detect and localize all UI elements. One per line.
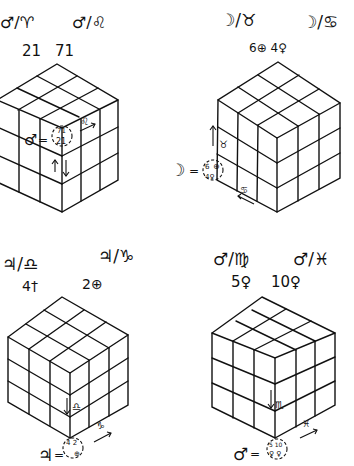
value-71: 71 bbox=[55, 42, 74, 60]
cancer-icon: ♋ bbox=[240, 185, 248, 195]
arrow-right-icon bbox=[94, 433, 111, 442]
svg-text:=: = bbox=[54, 448, 64, 462]
arrow-right-icon bbox=[300, 430, 317, 438]
jupiter-capricorn-label: ♃/♑ bbox=[98, 246, 134, 266]
svg-text:4♀: 4♀ bbox=[205, 173, 215, 181]
jupiter-icon: ♃ bbox=[38, 445, 53, 465]
header-bottom-left: ♃/♎ 4† ♃/♑ 2⊕ bbox=[2, 246, 134, 294]
pisces-icon: ♓ bbox=[302, 419, 310, 429]
mars-pisces-label: ♂/♓ bbox=[293, 249, 329, 269]
jupiter-libra-label: ♃/♎ bbox=[2, 254, 38, 274]
mars-icon: ♂ bbox=[24, 131, 37, 149]
cube-bottom-left bbox=[8, 297, 128, 438]
mars-aries-label: ♂/♈ bbox=[0, 13, 34, 32]
value-21: 21 bbox=[22, 42, 41, 60]
svg-text:=: = bbox=[189, 164, 199, 178]
svg-text:⊕: ⊕ bbox=[74, 450, 80, 458]
mars-virgo-label: ♂/♍ bbox=[213, 249, 249, 269]
svg-text:⊕: ⊕ bbox=[213, 162, 220, 171]
mars-leo-label: ♂/♌ bbox=[72, 13, 106, 32]
value-10-venus: 10♀ bbox=[271, 273, 301, 291]
svg-text:5 10: 5 10 bbox=[269, 441, 283, 448]
moon-icon: ☽ bbox=[170, 160, 185, 180]
capricorn-icon: ♑ bbox=[96, 420, 105, 431]
libra-icon: ♎ bbox=[72, 401, 81, 412]
value-4-dagger: 4† bbox=[22, 278, 38, 294]
moon-taurus-label: ☽/♉ bbox=[220, 10, 256, 30]
leo-icon: ♌ bbox=[80, 116, 89, 127]
annotation-top-right: ☽ = 6 ⊕ 4♀ ♉ ♋ bbox=[170, 126, 254, 204]
values-6-earth-4-venus: 6⊕ 4♀ bbox=[249, 41, 287, 55]
svg-text:6: 6 bbox=[205, 163, 210, 171]
taurus-icon: ♉ bbox=[219, 139, 228, 150]
header-top-left: ♂/♈ ♂/♌ 21 71 bbox=[0, 13, 106, 60]
moon-cancer-label: ☽/♋ bbox=[302, 12, 338, 32]
cube-bottom-right bbox=[212, 297, 335, 438]
svg-text:4 2: 4 2 bbox=[66, 439, 77, 447]
mars-icon: ♂ bbox=[233, 444, 248, 464]
svg-text:=: = bbox=[38, 133, 48, 147]
svg-text:71: 71 bbox=[57, 127, 66, 135]
header-bottom-right: ♂/♍ 5♀ ♂/♓ 10♀ bbox=[213, 249, 329, 291]
cube-top-right bbox=[217, 62, 340, 212]
annotation-bottom-left: ♃ = 4 2 ⊕ ♎ ♑ bbox=[38, 398, 111, 465]
svg-text:=: = bbox=[250, 447, 260, 461]
svg-text:♀ ♀: ♀ ♀ bbox=[269, 450, 281, 458]
cube-diagram: ♂/♈ ♂/♌ 21 71 ♂ = 71 21 ♌ bbox=[0, 0, 354, 466]
value-5-venus: 5♀ bbox=[231, 273, 252, 291]
header-top-right: ☽/♉ ☽/♋ 6⊕ 4♀ bbox=[220, 10, 338, 55]
arrow-left-icon bbox=[238, 196, 254, 204]
svg-text:21: 21 bbox=[56, 137, 66, 146]
annotation-top-left: ♂ = 71 21 ♌ bbox=[24, 116, 95, 176]
scorpio-icon: ♏ bbox=[275, 399, 284, 410]
value-2-earth: 2⊕ bbox=[82, 276, 103, 292]
